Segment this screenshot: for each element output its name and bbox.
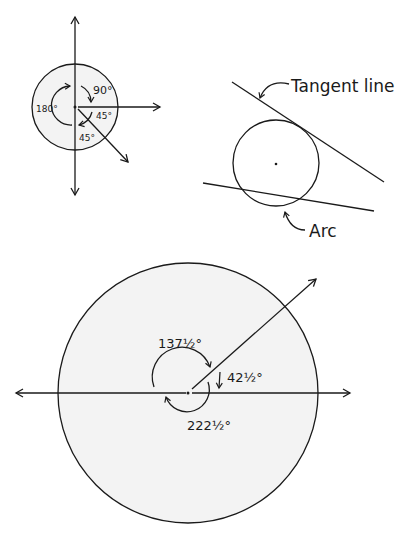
label-tangent-line: Tangent line [290, 76, 395, 96]
angles-figure: 90° 180° 45° 45° [32, 17, 160, 195]
large-center-point [187, 392, 190, 395]
label-arc: Arc [309, 221, 337, 241]
center-point [74, 106, 77, 109]
tangent-pointer-arrow [260, 83, 289, 98]
label-42-half: 42½° [227, 370, 263, 385]
label-137-half: 137½° [158, 336, 202, 351]
arc-pointer-arrow [285, 212, 305, 230]
label-180: 180° [36, 104, 58, 114]
label-222-half: 222½° [187, 418, 231, 433]
label-90: 90° [93, 84, 113, 97]
tangent-circle-center [275, 163, 278, 166]
large-circle-figure: 137½° 42½° 222½° [16, 263, 350, 523]
label-45-right: 45° [96, 111, 112, 121]
diagram-canvas: 90° 180° 45° 45° Tangent line Arc 137½° … [0, 0, 416, 549]
tangent-figure: Tangent line Arc [203, 76, 395, 241]
label-45-below: 45° [79, 133, 95, 143]
